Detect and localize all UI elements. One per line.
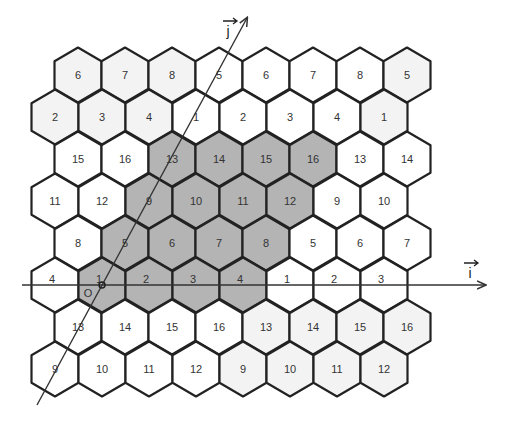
hexagonal-grid-diagram: 6785678523412341151613141516131411129101… [0, 0, 507, 421]
hex-label: 5 [404, 69, 410, 81]
hex-label: 11 [143, 363, 154, 375]
hex-label: 15 [260, 153, 272, 165]
hex-label: 15 [354, 321, 366, 333]
hex-label: 13 [354, 153, 366, 165]
hex-label: 3 [99, 111, 105, 123]
hex-label: 4 [334, 111, 340, 123]
hex-label: 3 [287, 111, 293, 123]
hex-label: 14 [213, 153, 225, 165]
hex-label: 15 [166, 321, 178, 333]
hex-label: 4 [237, 273, 243, 285]
hex-label: 12 [378, 363, 390, 375]
hex-label: 14 [401, 153, 413, 165]
hex-label: 4 [146, 111, 152, 123]
hex-label: 16 [213, 321, 225, 333]
hex-label: 7 [404, 237, 410, 249]
hex-label: 7 [216, 237, 222, 249]
hex-label: 11 [331, 363, 342, 375]
hex-label: 5 [310, 237, 316, 249]
hex-grid-canvas: 6785678523412341151613141516131411129101… [0, 0, 507, 421]
hex-label: 10 [284, 363, 296, 375]
vector-arrow-icon [223, 18, 237, 24]
hex-label: 7 [310, 69, 316, 81]
hex-label: 16 [401, 321, 413, 333]
hex-label: 2 [331, 273, 337, 285]
hex-label: 15 [72, 153, 84, 165]
hex-label: 3 [190, 273, 196, 285]
hex-label: 6 [263, 69, 269, 81]
hex-label: 6 [357, 237, 363, 249]
hex-label: 11 [237, 195, 248, 207]
hex-label: 13 [260, 321, 272, 333]
hex-label: 8 [263, 237, 269, 249]
hex-label: 4 [49, 273, 55, 285]
hex-label: 10 [96, 363, 108, 375]
hex-label: 9 [146, 195, 152, 207]
hex-label: 14 [119, 321, 131, 333]
j-vector-label: j [223, 18, 237, 39]
hex-label: 9 [240, 363, 246, 375]
hex-label: 6 [169, 237, 175, 249]
i-axis-label: i [468, 265, 471, 281]
hex-label: 11 [49, 195, 60, 207]
hex-label: 16 [307, 153, 319, 165]
origin-label: O [84, 287, 93, 299]
hex-label: 1 [381, 111, 387, 123]
hex-label: 2 [240, 111, 246, 123]
hex-label: 12 [284, 195, 296, 207]
hex-label: 12 [96, 195, 108, 207]
hex-label: 2 [143, 273, 149, 285]
hex-label: 10 [190, 195, 202, 207]
j-axis-label: j [225, 23, 229, 39]
hex-label: 3 [378, 273, 384, 285]
hex-label: 14 [307, 321, 319, 333]
hex-label: 7 [122, 69, 128, 81]
hex-label: 6 [75, 69, 81, 81]
hex-label: 12 [190, 363, 202, 375]
hex-label: 2 [52, 111, 58, 123]
hex-label: 1 [284, 273, 290, 285]
hex-label: 9 [334, 195, 340, 207]
hex-label: 8 [75, 237, 81, 249]
hex-label: 16 [119, 153, 131, 165]
hex-cells: 6785678523412341151613141516131411129101… [32, 48, 431, 397]
hex-label: 8 [357, 69, 363, 81]
hex-label: 10 [378, 195, 390, 207]
i-vector-label: i [464, 260, 478, 281]
hex-label: 8 [169, 69, 175, 81]
